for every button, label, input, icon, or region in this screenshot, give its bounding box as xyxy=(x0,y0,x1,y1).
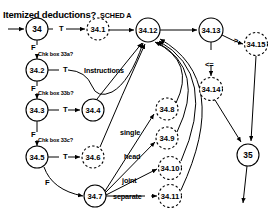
node-34-13[interactable]: 34.13 xyxy=(199,18,223,42)
lbl-t-343: T xyxy=(63,105,68,114)
node-label: 34.14 xyxy=(201,85,221,94)
node-label: 35 xyxy=(243,150,253,160)
node-34-4[interactable]: 34.4 xyxy=(82,99,104,121)
lbl-gt: > xyxy=(234,36,238,45)
edge-34-7-to-34-9 xyxy=(105,142,155,193)
node-34-11[interactable]: 34.11 xyxy=(159,185,182,208)
node-34-3[interactable]: 34.3 xyxy=(26,99,48,121)
node-34-2[interactable]: 34.2 xyxy=(26,59,48,81)
node-34-10[interactable]: 34.10 xyxy=(159,157,182,180)
lbl-f-34: F xyxy=(31,43,36,52)
lbl-joint: joint xyxy=(122,176,137,185)
lbl-instructions: Instructions xyxy=(84,66,124,75)
edge-35-exit xyxy=(243,166,247,203)
lbl-t-345: T xyxy=(63,152,68,161)
lbl-chk-33c: Chk box 33c? xyxy=(38,137,73,143)
node-label: 34 xyxy=(32,24,42,34)
edge-34-15-to-35 xyxy=(251,56,256,141)
node-label: 34.15 xyxy=(246,40,266,49)
node-34-6[interactable]: 34.6 xyxy=(82,146,104,168)
node-35[interactable]: 35 xyxy=(237,144,259,166)
node-label: 34.1 xyxy=(91,25,107,34)
node-34-8[interactable]: 34.8 xyxy=(156,98,178,120)
node-label: 34.6 xyxy=(86,153,101,162)
lbl-head: head xyxy=(124,152,140,161)
node-label: 34.10 xyxy=(160,164,179,173)
flowchart-canvas: 3434.134.1234.1334.1534.1434.234.334.434… xyxy=(0,0,272,212)
node-label: 34.12 xyxy=(138,26,157,35)
lbl-lte: <= xyxy=(205,60,214,69)
node-label: 34.9 xyxy=(160,134,175,143)
lbl-t-342: T xyxy=(63,65,68,74)
lbl-chk-33a: Chk box 33a? xyxy=(38,51,73,57)
edge-34-13-to-34-15 xyxy=(222,35,243,44)
lbl-f-343: F xyxy=(31,130,36,139)
node-34[interactable]: 34 xyxy=(26,18,48,40)
lbl-f-342: F xyxy=(31,84,36,93)
node-label: 34.3 xyxy=(30,106,45,115)
node-label: 34.2 xyxy=(30,66,45,75)
node-label: 34.8 xyxy=(160,105,175,114)
node-label: 34.5 xyxy=(30,153,46,162)
node-label: 34.4 xyxy=(86,106,102,115)
node-34-7[interactable]: 34.7 xyxy=(84,185,106,207)
lbl-single: single xyxy=(120,128,140,137)
edge-34-8-to-34-12 xyxy=(155,42,183,103)
edge-34-14-to-35 xyxy=(215,100,241,142)
node-34-1[interactable]: 34.1 xyxy=(87,18,109,40)
lbl-separate: separate xyxy=(113,192,142,201)
page-title: Itemized deductions? xyxy=(3,9,96,20)
node-label: 34.11 xyxy=(161,192,180,201)
node-label: 34.7 xyxy=(88,192,103,201)
lbl-f-345: F xyxy=(45,178,50,187)
lbl-t-34: T xyxy=(59,24,64,33)
lbl-sched-a: SCHED A xyxy=(100,11,131,20)
node-34-9[interactable]: 34.9 xyxy=(156,127,178,149)
node-34-14[interactable]: 34.14 xyxy=(200,78,223,101)
node-34-15[interactable]: 34.15 xyxy=(245,33,268,56)
node-label: 34.13 xyxy=(201,26,220,35)
lbl-chk-33b: Chk box 33b? xyxy=(38,90,73,96)
node-34-12[interactable]: 34.12 xyxy=(136,18,160,42)
node-34-5[interactable]: 34.5 xyxy=(26,146,48,168)
